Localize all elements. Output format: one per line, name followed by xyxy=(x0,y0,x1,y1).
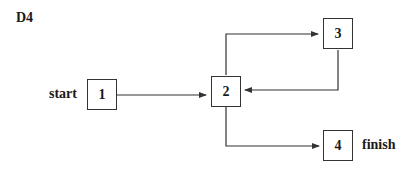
node-2: 2 xyxy=(211,76,241,107)
edge-3-to-2 xyxy=(245,50,338,90)
node-1: 1 xyxy=(87,79,117,110)
edge-2-to-3 xyxy=(226,34,318,75)
edge-2-to-4 xyxy=(226,107,319,146)
node-3: 3 xyxy=(323,18,353,49)
start-label: start xyxy=(49,86,77,102)
node-4: 4 xyxy=(323,130,353,161)
finish-label: finish xyxy=(362,137,395,153)
